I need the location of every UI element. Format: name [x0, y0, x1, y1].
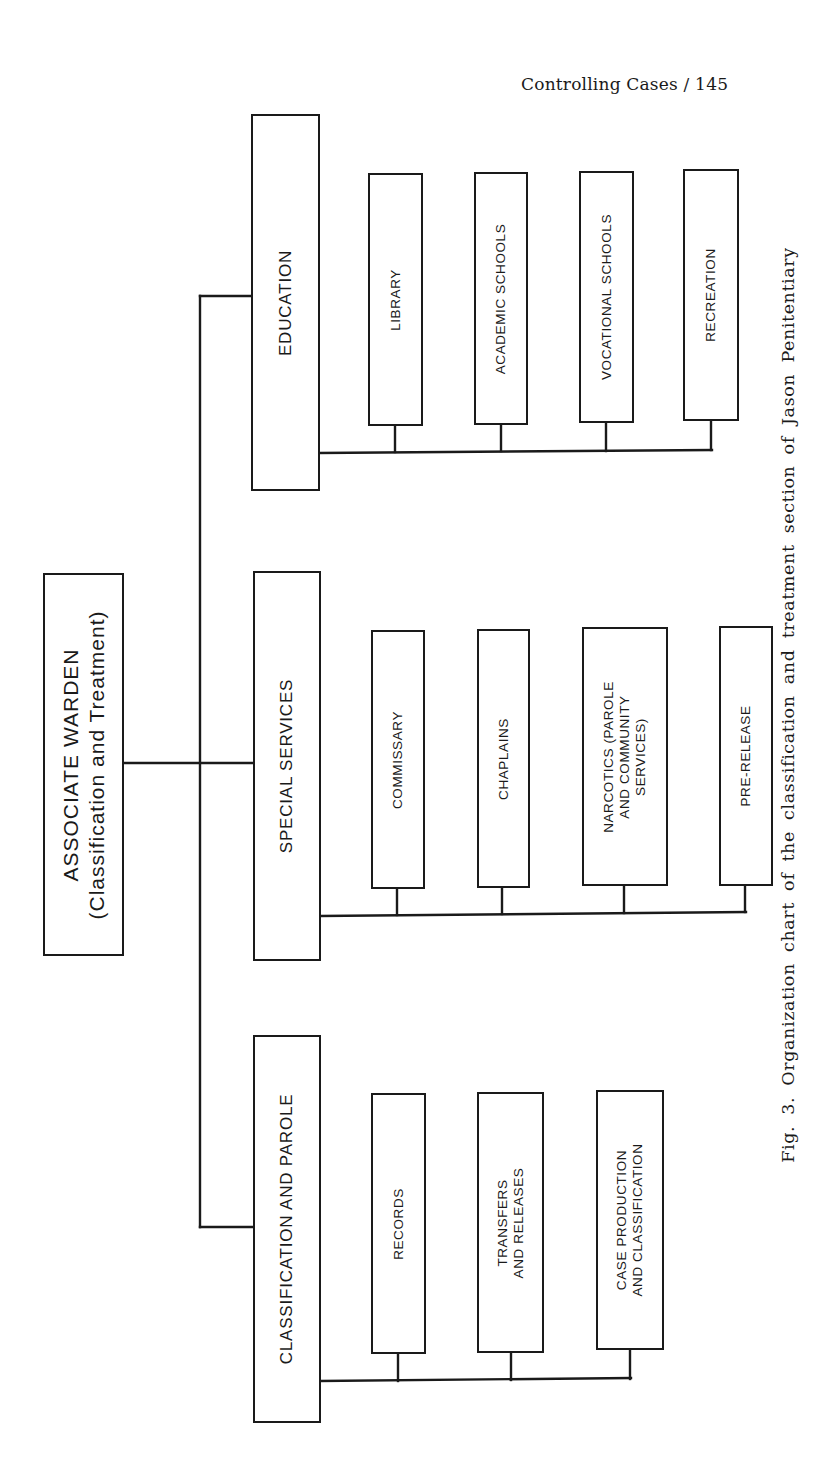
unit-label: RECREATION [703, 248, 719, 342]
department-label: EDUCATION [275, 249, 295, 355]
unit-label: RECORDS [390, 1188, 406, 1260]
education-bus [319, 450, 712, 453]
department-classification-and-parole: CLASSIFICATION AND PAROLE [253, 1035, 321, 1423]
unit-label-line: NARCOTICS (PAROLE [601, 681, 617, 833]
unit-label-line: AND RELEASES [511, 1167, 527, 1278]
unit-pre-release: PRE-RELEASE [719, 626, 773, 886]
classification-bus [320, 1378, 631, 1381]
unit-label-line: AND COMMUNITY [617, 681, 633, 833]
unit-label: PRE-RELEASE [738, 705, 754, 806]
special-services-bus [320, 912, 746, 916]
associate-warden-subtitle: (Classification and Treatment) [84, 610, 110, 919]
unit-chaplains: CHAPLAINS [477, 629, 530, 888]
unit-recreation: RECREATION [683, 169, 739, 421]
unit-label: LIBRARY [387, 269, 403, 331]
department-education: EDUCATION [251, 114, 320, 491]
department-label: CLASSIFICATION AND PAROLE [277, 1094, 297, 1365]
unit-label-line: TRANSFERS [494, 1167, 510, 1278]
unit-label: COMMISSARY [390, 710, 406, 808]
unit-narcotics: NARCOTICS (PAROLE AND COMMUNITY SERVICES… [582, 627, 668, 886]
figure-caption: Fig. 3. Organization chart of the classi… [778, 247, 798, 1163]
unit-label: ACADEMIC SCHOOLS [493, 223, 509, 374]
unit-records: RECORDS [371, 1093, 426, 1354]
unit-academic-schools: ACADEMIC SCHOOLS [474, 172, 528, 425]
unit-label-line: AND CLASSIFICATION [630, 1143, 646, 1296]
unit-library: LIBRARY [368, 173, 423, 426]
associate-warden-box: ASSOCIATE WARDEN (Classification and Tre… [43, 573, 124, 956]
department-special-services: SPECIAL SERVICES [253, 571, 321, 961]
department-label: SPECIAL SERVICES [277, 679, 297, 853]
associate-warden-title: ASSOCIATE WARDEN [57, 610, 83, 919]
unit-case-production-and-classification: CASE PRODUCTION AND CLASSIFICATION [596, 1090, 664, 1350]
unit-vocational-schools: VOCATIONAL SCHOOLS [579, 171, 634, 423]
unit-label-line: SERVICES) [633, 681, 649, 833]
unit-label-line: CASE PRODUCTION [614, 1143, 630, 1296]
unit-transfers-and-releases: TRANSFERS AND RELEASES [477, 1092, 544, 1353]
unit-label: CHAPLAINS [495, 718, 511, 800]
unit-commissary: COMMISSARY [371, 630, 425, 889]
unit-label: VOCATIONAL SCHOOLS [598, 214, 614, 380]
